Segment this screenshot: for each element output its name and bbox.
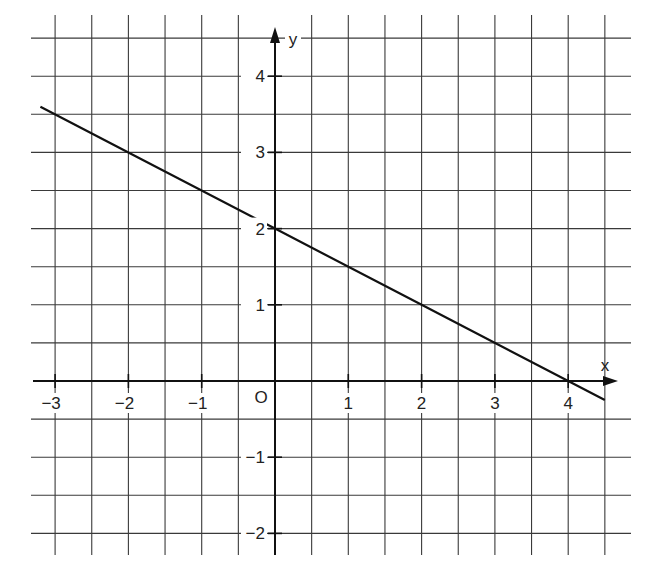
x-tick-label: −2: [115, 394, 134, 413]
y-axis-arrow-icon: [270, 27, 280, 43]
axes: [33, 27, 618, 555]
x-tick-label: 2: [417, 394, 426, 413]
x-axis-label: x: [601, 356, 610, 375]
y-tick-label: 4: [256, 67, 265, 86]
x-axis-arrow-icon: [603, 376, 618, 386]
grid: [31, 15, 631, 555]
y-tick-label: 1: [256, 296, 265, 315]
coordinate-plane: −3−2−112344321−1−2xyO: [0, 0, 647, 583]
x-tick-label: 3: [490, 394, 499, 413]
data-series: [40, 107, 604, 400]
y-tick-label: −1: [246, 448, 265, 467]
x-tick-label: −3: [41, 394, 60, 413]
y-tick-label: 3: [256, 143, 265, 162]
x-tick-label: −1: [188, 394, 207, 413]
x-tick-label: 4: [563, 394, 572, 413]
series-line: [40, 107, 604, 400]
y-tick-label: −2: [246, 524, 265, 543]
x-tick-label: 1: [344, 394, 353, 413]
axis-labels: −3−2−112344321−1−2xyO: [41, 30, 609, 544]
origin-label: O: [254, 388, 267, 407]
y-tick-label: 2: [256, 220, 265, 239]
y-axis-label: y: [289, 30, 298, 49]
